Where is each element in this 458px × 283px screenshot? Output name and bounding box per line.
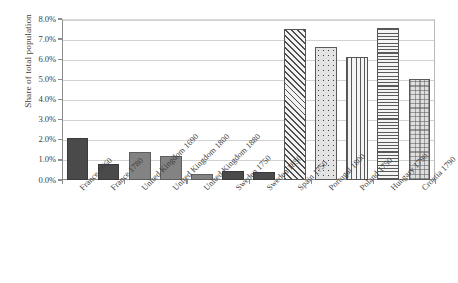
y-axis-tick-mark — [58, 18, 62, 19]
y-axis-tick-label: 0.0% — [10, 175, 56, 185]
bar-slot — [98, 19, 120, 180]
y-axis-tick-label: 8.0% — [10, 14, 56, 24]
y-axis-tick-mark — [58, 99, 62, 100]
y-axis-tick-mark — [58, 119, 62, 120]
x-axis-tick-mark — [249, 180, 250, 184]
x-axis-tick-mark — [124, 180, 125, 184]
bar[interactable] — [315, 47, 337, 180]
bar-slot — [129, 19, 151, 180]
x-axis-tick-mark — [311, 180, 312, 184]
y-axis-tick-label: 1.0% — [10, 154, 56, 164]
x-axis-tick-mark — [186, 180, 187, 184]
y-axis-tick-mark — [58, 139, 62, 140]
y-axis-tick-label: 5.0% — [10, 74, 56, 84]
bar-slot — [67, 19, 89, 180]
y-axis-tick-mark — [58, 159, 62, 160]
y-axis-tick-label: 7.0% — [10, 34, 56, 44]
y-axis-tick-label: 3.0% — [10, 114, 56, 124]
bar-slot — [315, 19, 337, 180]
y-axis-tick-label: 6.0% — [10, 54, 56, 64]
bar[interactable] — [67, 138, 89, 180]
bars-group — [62, 19, 435, 180]
x-axis-tick-mark — [373, 180, 374, 184]
y-axis-tick-mark — [58, 59, 62, 60]
x-axis-tick-mark — [62, 180, 63, 184]
y-axis-tick-mark — [58, 79, 62, 80]
y-axis-tick-mark — [58, 38, 62, 39]
y-axis-tick-label: 4.0% — [10, 94, 56, 104]
x-axis-tick-mark — [435, 180, 436, 184]
y-axis-tick-label: 2.0% — [10, 134, 56, 144]
